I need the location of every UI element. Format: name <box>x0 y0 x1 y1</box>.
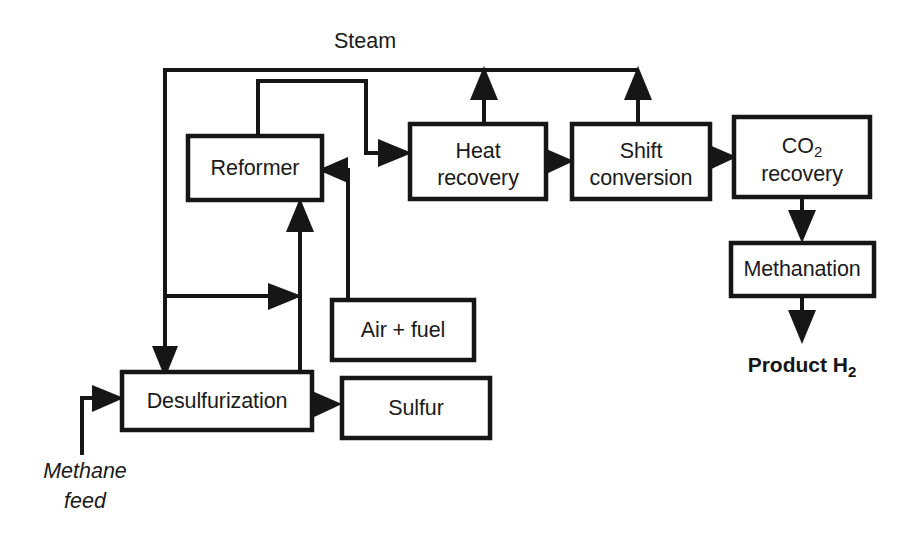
methane-feed-path <box>82 385 124 455</box>
flow-diagram-canvas: Reformer Heat recovery Shift conversion … <box>0 0 909 533</box>
box-reformer[interactable]: Reformer <box>188 136 322 200</box>
methane-feed-label-line1: Methane <box>43 459 127 483</box>
reformer-label: Reformer <box>211 156 300 180</box>
box-desulfurization[interactable]: Desulfurization <box>122 372 312 430</box>
shift-conversion-to-steam-path <box>624 66 652 124</box>
heat-recovery-to-steam-path <box>470 66 498 124</box>
product-hydrogen-label: Product H2 <box>748 353 857 380</box>
reformer-to-heat-recovery-arrowhead <box>378 139 412 167</box>
desulfurization-to-sulfur-arrowhead <box>312 391 342 418</box>
air-fuel-label: Air + fuel <box>361 318 445 342</box>
heat-to-shift-arrowhead <box>544 148 574 175</box>
heat-recovery-to-shift-path <box>544 148 574 175</box>
methanation-to-product-path <box>788 296 816 344</box>
process-flow-diagram: Reformer Heat recovery Shift conversion … <box>0 0 909 533</box>
steam-branch-arrowhead <box>268 283 302 310</box>
co2-recovery-label-line2: recovery <box>761 162 843 186</box>
product-label-base: Product H <box>748 353 848 376</box>
heat-recovery-label-line2: recovery <box>437 166 519 190</box>
methanation-to-product-arrowhead <box>788 310 816 344</box>
desulfurization-to-sulfur-path <box>312 391 342 418</box>
methane-feed-arrowhead <box>92 385 124 412</box>
box-co2-recovery[interactable]: CO2 recovery <box>734 117 870 197</box>
co2-formula-subscript: 2 <box>814 143 822 160</box>
heat-recovery-label-line1: Heat <box>455 139 500 163</box>
box-shift-conversion[interactable]: Shift conversion <box>572 124 710 199</box>
desulfurization-to-reformer-path <box>286 198 314 372</box>
methane-feed-label-line2: feed <box>64 489 107 513</box>
steam-label: Steam <box>334 29 396 53</box>
sulfur-label: Sulfur <box>388 396 444 420</box>
box-sulfur[interactable]: Sulfur <box>342 378 490 438</box>
box-air-fuel[interactable]: Air + fuel <box>332 300 474 360</box>
shift-conversion-label-line2: conversion <box>590 166 693 190</box>
co2-to-methanation-path <box>788 197 816 243</box>
co2-to-methanation-arrowhead <box>788 210 816 243</box>
box-methanation[interactable]: Methanation <box>731 243 874 296</box>
air-fuel-riser-line <box>340 170 348 300</box>
desulfurization-to-reformer-arrowhead <box>286 198 314 232</box>
desulfurization-label: Desulfurization <box>147 389 288 413</box>
steam-branch-to-reformer-path <box>165 283 302 310</box>
shift-conversion-label-line1: Shift <box>620 139 663 163</box>
co2-formula-base: CO <box>782 134 814 158</box>
product-label-subscript: 2 <box>848 363 856 380</box>
methanation-label: Methanation <box>743 257 860 281</box>
box-heat-recovery[interactable]: Heat recovery <box>410 124 546 199</box>
